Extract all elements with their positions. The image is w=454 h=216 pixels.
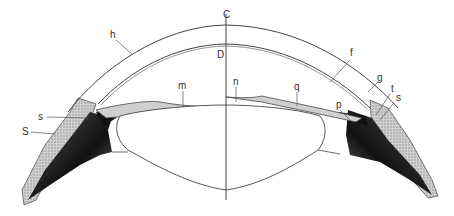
eye-anatomy-diagram: C D h f g t s p q n m s S [0,0,454,216]
zonule-right [318,150,340,154]
label-f: f [350,48,353,58]
label-q: q [294,82,300,92]
label-D: D [217,50,224,60]
label-h: h [110,30,116,40]
label-g: g [377,73,383,83]
label-s-left: s [38,112,43,122]
label-C: C [223,10,230,20]
label-s-right: s [396,93,401,103]
label-t: t [391,84,394,94]
label-p: p [336,100,342,110]
cornea-outer [68,25,398,112]
label-m: m [178,81,186,91]
diagram-drawing [0,0,454,216]
lens [117,105,325,190]
label-n: n [233,77,239,87]
label-S: S [22,127,29,137]
